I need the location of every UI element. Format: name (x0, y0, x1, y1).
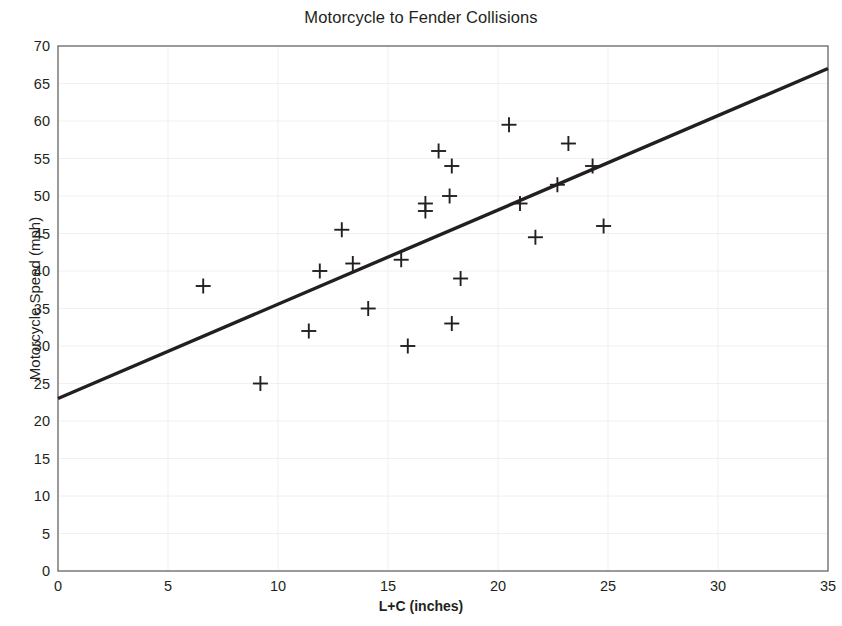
gridlines (58, 46, 828, 571)
data-point (361, 301, 376, 316)
data-point (444, 159, 459, 174)
data-point (442, 189, 457, 204)
data-point (453, 271, 468, 286)
data-point (561, 136, 576, 151)
data-point (301, 324, 316, 339)
data-point (196, 279, 211, 294)
data-point (550, 177, 565, 192)
plot-area (0, 0, 842, 626)
data-point (502, 117, 517, 132)
data-point (431, 144, 446, 159)
data-point (400, 339, 415, 354)
data-point (596, 219, 611, 234)
data-point (528, 230, 543, 245)
data-point (418, 196, 433, 211)
data-point (334, 222, 349, 237)
data-point (444, 316, 459, 331)
scatter-chart: Motorcycle to Fender Collisions Motorcyc… (0, 0, 842, 626)
data-point (312, 264, 327, 279)
data-point (253, 376, 268, 391)
